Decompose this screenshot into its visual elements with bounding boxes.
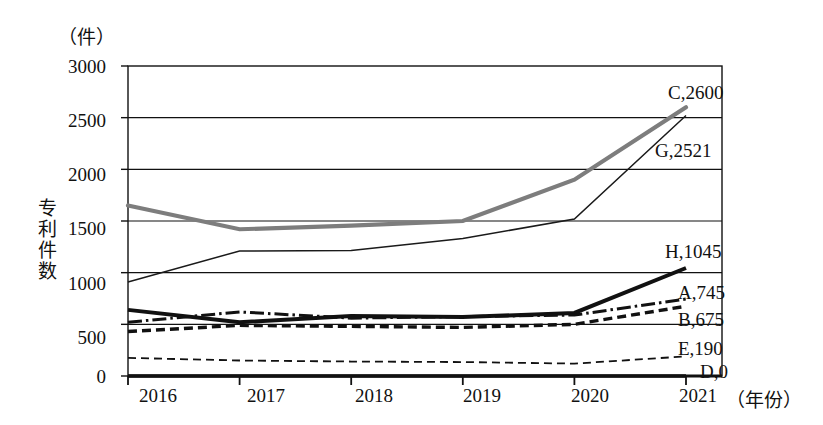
series-label-G: G,2521 (655, 140, 711, 162)
series-line-G (128, 115, 686, 281)
series-label-D: D,0 (700, 361, 728, 383)
patent-count-line-chart: （件） 专利件数 3000 2500 2000 1500 1000 500 0 … (0, 0, 823, 425)
series-line-E (128, 356, 686, 363)
series-label-A: A,745 (678, 282, 725, 304)
series-line-C (128, 107, 686, 229)
series-label-B: B,675 (678, 309, 724, 331)
series-label-H: H,1045 (665, 241, 721, 263)
series-label-C: C,2600 (668, 82, 723, 104)
series-label-E: E,190 (678, 338, 723, 360)
